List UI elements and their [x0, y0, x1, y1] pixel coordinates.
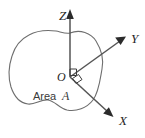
origin-label: O	[57, 70, 66, 84]
z-axis-label: Z	[59, 8, 67, 23]
z-axis-group: Z	[59, 8, 74, 77]
area-label-symbol: A	[61, 89, 70, 103]
figure-canvas: Z Y X O Area A	[0, 0, 145, 138]
y-axis-group: Y	[70, 31, 140, 77]
x-axis-label: X	[118, 113, 128, 128]
z-axis-arrowhead	[66, 9, 74, 19]
y-axis-label: Y	[131, 31, 140, 46]
coordinate-system-figure: Z Y X O Area A	[0, 0, 145, 138]
y-axis-line	[70, 41, 120, 77]
area-label-prefix: Area	[33, 90, 57, 102]
